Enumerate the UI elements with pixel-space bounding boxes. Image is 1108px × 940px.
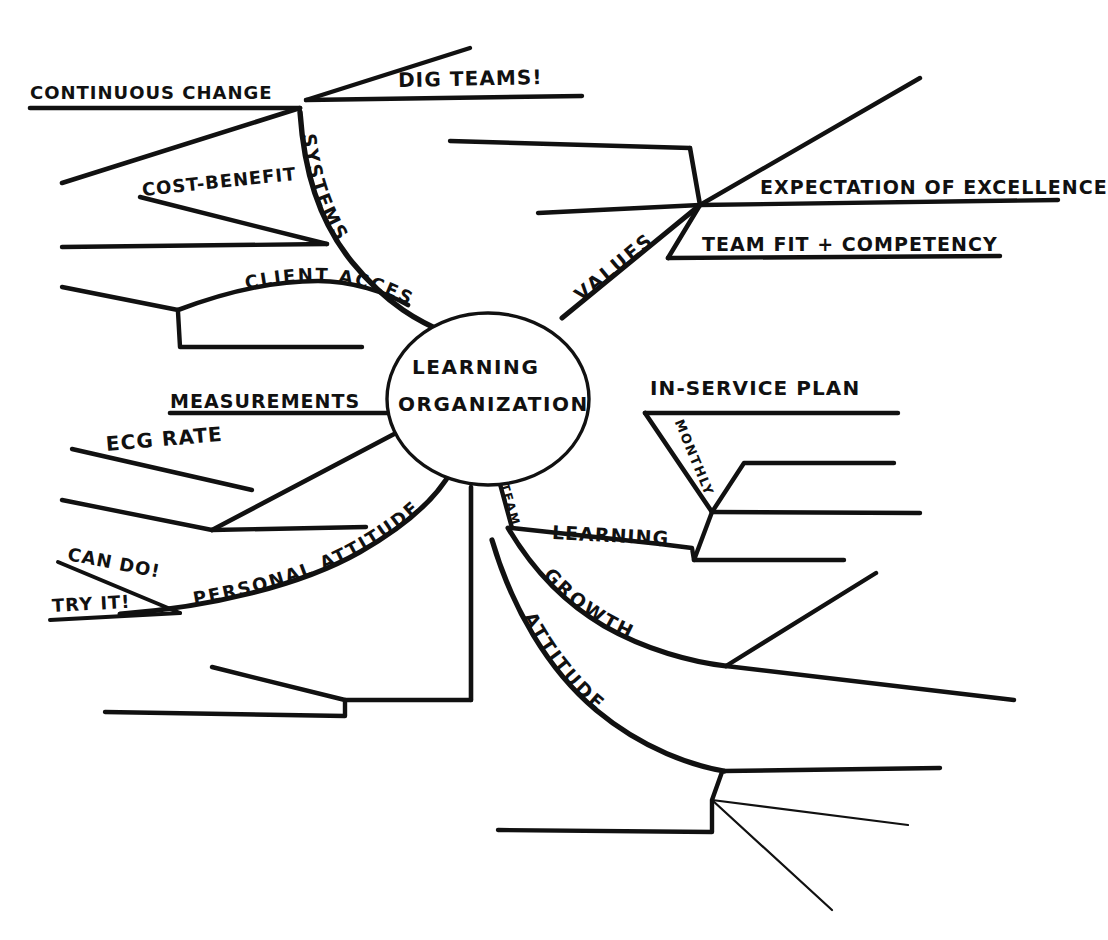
line-values-upper	[450, 141, 690, 148]
center-title-line2: ORGANIZATION	[398, 394, 589, 414]
label-values: VALUES	[570, 228, 658, 305]
line-center-bottom-stub	[212, 667, 345, 700]
line-team-fit	[668, 256, 1000, 258]
line-monthly-child-3	[694, 512, 844, 560]
line-cost-benefit-stub	[62, 244, 327, 247]
branch-cost-benefit	[62, 197, 327, 247]
branch-ecg-rate	[62, 449, 366, 530]
line-team-fit-up	[668, 205, 700, 258]
line-attitude-bracket	[498, 772, 722, 832]
branch-expectation-of-excellence	[538, 200, 1058, 213]
label-dig-teams: DIG TEAMS!	[398, 67, 543, 90]
label-continuous-change: CONTINUOUS CHANGE	[30, 84, 273, 102]
line-ecg-rate-stub	[62, 500, 212, 530]
label-team: TEAM	[497, 482, 522, 528]
label-in-service-plan: IN-SERVICE PLAN	[650, 378, 860, 398]
label-team-fit-competency: TEAM FIT + COMPETENCY	[702, 235, 998, 254]
branch-systems	[300, 112, 448, 334]
line-client-access-bracket	[178, 312, 362, 347]
line-center-bottom-bracket	[105, 700, 471, 716]
branch-client-access	[62, 281, 408, 347]
line-monthly-child-1	[712, 463, 894, 512]
label-try-it: TRY IT!	[52, 593, 131, 615]
line-values-upper-down	[690, 148, 700, 205]
branch-systems-stroke	[300, 112, 448, 334]
center-title-line1: LEARNING	[412, 357, 539, 377]
line-expectation-left	[538, 205, 700, 213]
line-expectation	[700, 200, 1058, 205]
line-growth-up	[726, 573, 876, 666]
branch-monthly-children	[694, 463, 920, 560]
label-personal-attitude: PERSONAL ATTITUDE	[191, 496, 423, 609]
line-growth-down	[726, 666, 1014, 700]
branch-attitude-stroke	[492, 540, 724, 771]
line-monthly-child-2	[712, 512, 920, 513]
line-attitude-fan-1	[712, 800, 908, 825]
line-ecg-rate	[72, 449, 252, 490]
line-client-access-stub	[62, 287, 178, 310]
label-growth: GROWTH	[540, 563, 639, 643]
label-systems: SYSTEMS	[298, 132, 354, 245]
line-dig-teams	[306, 96, 582, 100]
line-attitude-fan-2	[712, 800, 832, 910]
label-measurements: MEASUREMENTS	[170, 392, 360, 411]
line-attitude-horizontal	[724, 768, 940, 771]
line-measurements-lower	[212, 527, 366, 530]
label-expectation-of-excellence: EXPECTATION OF EXCELLENCE	[760, 178, 1108, 197]
line-cost-benefit	[140, 197, 327, 244]
